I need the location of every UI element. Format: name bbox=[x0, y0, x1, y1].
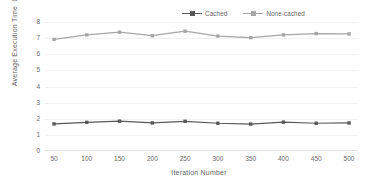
legend-swatch-cached bbox=[182, 9, 202, 17]
series-line-cached bbox=[54, 121, 349, 124]
x-tick-label: 50 bbox=[50, 156, 57, 163]
x-tick-label: 100 bbox=[81, 156, 92, 163]
x-tick-label: 500 bbox=[344, 156, 355, 163]
series-line-none-cached bbox=[54, 31, 349, 39]
legend-marker-cached bbox=[190, 11, 195, 16]
y-tick-label: 0 bbox=[36, 148, 40, 155]
y-tick-label: 5 bbox=[36, 67, 40, 74]
y-tick-label: 8 bbox=[36, 19, 40, 26]
x-tick-label: 350 bbox=[245, 156, 256, 163]
x-tick-label: 300 bbox=[212, 156, 223, 163]
y-tick-label: 4 bbox=[36, 83, 40, 90]
data-point-marker bbox=[249, 122, 252, 125]
plot-area: 012345678 50100150200250300350400450500 bbox=[45, 22, 358, 151]
legend-label-none-cached: None-cached bbox=[266, 10, 305, 17]
y-tick-label: 3 bbox=[36, 99, 40, 106]
data-point-marker bbox=[85, 121, 88, 124]
x-tick-label: 400 bbox=[278, 156, 289, 163]
x-tick-label: 450 bbox=[311, 156, 322, 163]
x-axis-title: Iteration Number bbox=[44, 169, 354, 176]
data-point-marker bbox=[52, 122, 55, 125]
data-point-marker bbox=[52, 38, 55, 41]
x-tick-label: 150 bbox=[114, 156, 125, 163]
data-point-marker bbox=[118, 30, 121, 33]
chart-container: Cached None-cached Average Execution Tim… bbox=[0, 0, 367, 187]
data-point-marker bbox=[151, 34, 154, 37]
data-point-marker bbox=[315, 122, 318, 125]
data-point-marker bbox=[347, 121, 350, 124]
data-point-marker bbox=[282, 33, 285, 36]
data-point-marker bbox=[118, 119, 121, 122]
y-tick-label: 2 bbox=[36, 116, 40, 123]
x-tick-label: 250 bbox=[180, 156, 191, 163]
data-point-marker bbox=[216, 122, 219, 125]
y-axis-title: Average Execution Time（s） bbox=[9, 0, 19, 107]
data-point-marker bbox=[216, 34, 219, 37]
data-point-marker bbox=[249, 36, 252, 39]
data-point-marker bbox=[347, 32, 350, 35]
data-point-marker bbox=[183, 29, 186, 32]
data-point-marker bbox=[151, 121, 154, 124]
series-plot bbox=[45, 22, 358, 151]
y-tick-label: 6 bbox=[36, 51, 40, 58]
legend-item-none-cached[interactable]: None-cached bbox=[243, 9, 305, 17]
legend-item-cached[interactable]: Cached bbox=[182, 9, 227, 17]
chart-legend: Cached None-cached bbox=[0, 6, 367, 20]
y-tick-label: 7 bbox=[36, 35, 40, 42]
data-point-marker bbox=[183, 120, 186, 123]
legend-label-cached: Cached bbox=[205, 10, 227, 17]
data-point-marker bbox=[85, 33, 88, 36]
data-point-marker bbox=[282, 120, 285, 123]
data-point-marker bbox=[315, 32, 318, 35]
legend-marker-none-cached bbox=[251, 11, 256, 16]
legend-swatch-none-cached bbox=[243, 9, 263, 17]
x-tick-label: 200 bbox=[147, 156, 158, 163]
y-tick-label: 1 bbox=[36, 132, 40, 139]
